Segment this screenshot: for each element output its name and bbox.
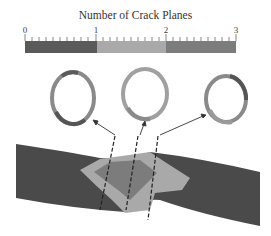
center-ring (123, 69, 167, 119)
specimen (16, 144, 260, 226)
figure-canvas (0, 0, 271, 236)
colorbar (25, 34, 236, 53)
right-ring (206, 76, 246, 123)
left-ring (52, 72, 94, 124)
